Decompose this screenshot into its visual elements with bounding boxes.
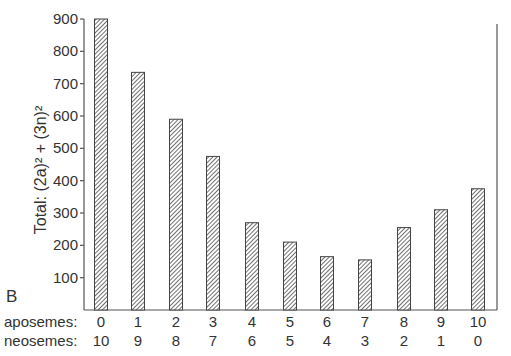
bar	[132, 72, 145, 310]
category-row-label: aposemes:	[4, 313, 77, 330]
bar	[207, 156, 220, 310]
category-label: 1	[134, 313, 142, 330]
category-label: 3	[361, 332, 369, 349]
category-label: 0	[97, 313, 105, 330]
y-tick-label: 600	[53, 107, 78, 124]
bar	[246, 223, 259, 310]
category-label: 4	[248, 313, 256, 330]
category-label: 3	[209, 313, 217, 330]
category-label: 4	[323, 332, 331, 349]
bar	[170, 119, 183, 310]
y-axis-label: Total: (2a)² + (3n)²	[32, 105, 49, 234]
category-label: 7	[361, 313, 369, 330]
y-tick-label: 300	[53, 204, 78, 221]
bars	[95, 19, 485, 310]
x-axis-category-labels: aposemes:012345678910neosemes:1098765432…	[4, 313, 486, 349]
category-label: 6	[323, 313, 331, 330]
category-row-label: neosemes:	[4, 332, 77, 349]
y-tick-label: 100	[53, 269, 78, 286]
bar	[359, 260, 372, 310]
bar	[398, 228, 411, 310]
category-label: 10	[93, 332, 110, 349]
category-label: 8	[172, 332, 180, 349]
category-label: 7	[209, 332, 217, 349]
category-label: 0	[474, 332, 482, 349]
category-label: 1	[437, 332, 445, 349]
category-label: 9	[437, 313, 445, 330]
category-label: 5	[286, 313, 294, 330]
category-label: 5	[286, 332, 294, 349]
category-label: 6	[248, 332, 256, 349]
bar	[321, 257, 334, 310]
category-label: 2	[172, 313, 180, 330]
bar	[284, 242, 297, 310]
y-axis-title: Total: (2a)² + (3n)²	[32, 105, 49, 234]
panel-label: B	[6, 287, 17, 306]
category-label: 9	[134, 332, 142, 349]
y-tick-label: 200	[53, 236, 78, 253]
y-tick-label: 900	[53, 10, 78, 27]
y-tick-label: 800	[53, 42, 78, 59]
category-label: 10	[470, 313, 487, 330]
bar-chart: Total: (2a)² + (3n)² B 10020030040050060…	[0, 0, 511, 356]
category-label: 2	[400, 332, 408, 349]
y-tick-label: 400	[53, 172, 78, 189]
y-tick-label: 700	[53, 75, 78, 92]
category-label: 8	[400, 313, 408, 330]
y-axis-ticks: 100200300400500600700800900	[53, 10, 84, 286]
y-tick-label: 500	[53, 139, 78, 156]
bar	[435, 210, 448, 310]
bar	[95, 19, 108, 310]
bar	[472, 189, 485, 310]
